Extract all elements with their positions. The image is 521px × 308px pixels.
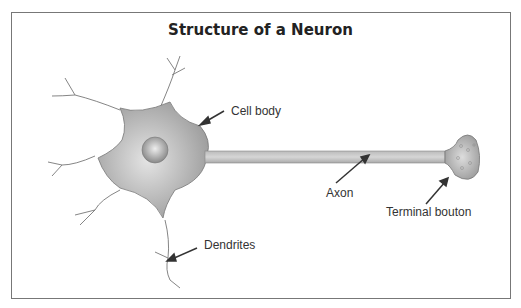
nucleus bbox=[142, 137, 168, 163]
terminal-bouton-label: Terminal bouton bbox=[386, 205, 471, 219]
axon-label: Axon bbox=[326, 186, 353, 200]
axon bbox=[205, 151, 445, 163]
dendrites-label: Dendrites bbox=[204, 238, 255, 252]
terminal-bouton bbox=[445, 135, 480, 179]
neuron-illustration bbox=[0, 0, 521, 308]
cell-body-label: Cell body bbox=[231, 104, 281, 118]
